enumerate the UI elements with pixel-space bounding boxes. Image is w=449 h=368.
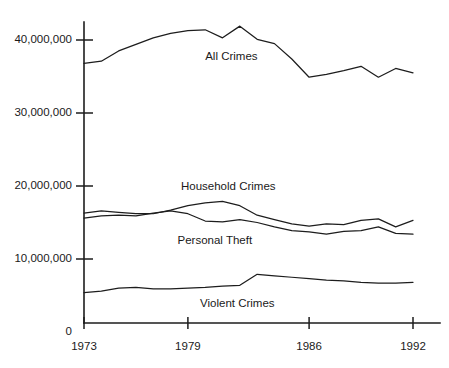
x-tick-label: 1973 [71, 340, 97, 352]
series-annotation-personal-theft: Personal Theft [178, 234, 253, 246]
series-line-personal-theft [84, 211, 413, 234]
y-tick-label: 20,000,000 [14, 179, 72, 191]
chart-canvas: 010,000,00020,000,00030,000,00040,000,00… [0, 0, 449, 368]
series-annotation-violent-crimes: Violent Crimes [200, 297, 275, 309]
series-annotation-all-crimes: All Crimes [205, 50, 258, 62]
series-line-violent-crimes [84, 274, 413, 292]
x-tick-label: 1979 [175, 340, 201, 352]
series-line-household-crimes [84, 201, 413, 227]
x-tick-label: 1992 [400, 340, 426, 352]
x-tick-label: 1986 [296, 340, 322, 352]
x-axis-group: 1973197919861992 [71, 317, 440, 352]
y-axis-ticks: 010,000,00020,000,00030,000,00040,000,00… [14, 33, 93, 337]
series-lines [84, 26, 413, 292]
crime-statistics-line-chart: 010,000,00020,000,00030,000,00040,000,00… [0, 0, 449, 368]
series-annotations: All CrimesHousehold CrimesPersonal Theft… [178, 50, 276, 309]
series-annotation-household-crimes: Household Crimes [181, 180, 276, 192]
y-tick-label: 40,000,000 [14, 33, 72, 45]
y-tick-label: 10,000,000 [14, 252, 72, 264]
y-axis-group: 010,000,00020,000,00030,000,00040,000,00… [14, 22, 93, 337]
y-tick-label: 30,000,000 [14, 106, 72, 118]
y-tick-label: 0 [66, 325, 72, 337]
